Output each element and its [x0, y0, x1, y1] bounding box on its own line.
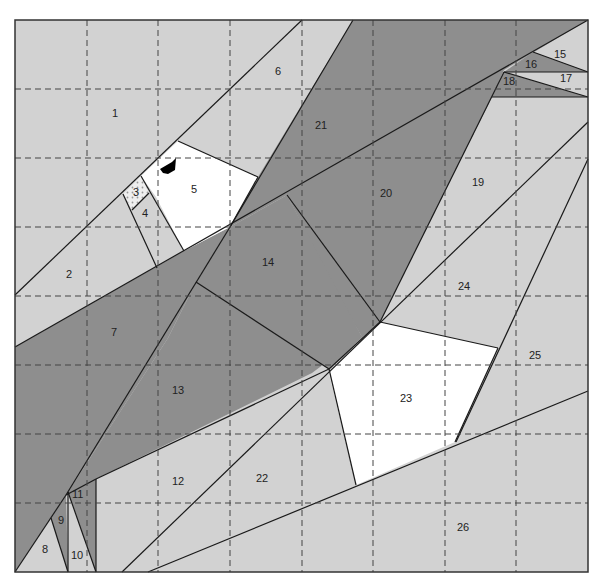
label-22: 22	[256, 472, 268, 484]
label-14: 14	[262, 256, 274, 268]
pattern-svg: 1 2 3 4 5 6 7 8 9 10 11 12 13 14 15 16 1…	[0, 0, 602, 588]
label-15: 15	[554, 48, 566, 60]
label-19: 19	[472, 176, 484, 188]
label-5: 5	[191, 183, 197, 195]
label-8: 8	[42, 543, 48, 555]
label-17: 17	[560, 72, 572, 84]
label-21: 21	[315, 119, 327, 131]
quilt-pattern-diagram: 1 2 3 4 5 6 7 8 9 10 11 12 13 14 15 16 1…	[0, 0, 602, 588]
label-11: 11	[72, 488, 83, 500]
label-25: 25	[529, 349, 541, 361]
label-16: 16	[525, 58, 537, 70]
label-2: 2	[66, 268, 72, 280]
label-26: 26	[457, 521, 469, 533]
label-18: 18	[503, 75, 515, 87]
label-3: 3	[133, 186, 139, 198]
label-7: 7	[111, 326, 117, 338]
label-12: 12	[172, 475, 184, 487]
label-24: 24	[458, 280, 470, 292]
label-13: 13	[172, 384, 184, 396]
label-1: 1	[112, 107, 118, 119]
label-9: 9	[58, 514, 64, 526]
label-4: 4	[142, 207, 148, 219]
label-20: 20	[380, 187, 392, 199]
label-10: 10	[71, 549, 83, 561]
label-6: 6	[275, 65, 281, 77]
label-23: 23	[400, 392, 412, 404]
